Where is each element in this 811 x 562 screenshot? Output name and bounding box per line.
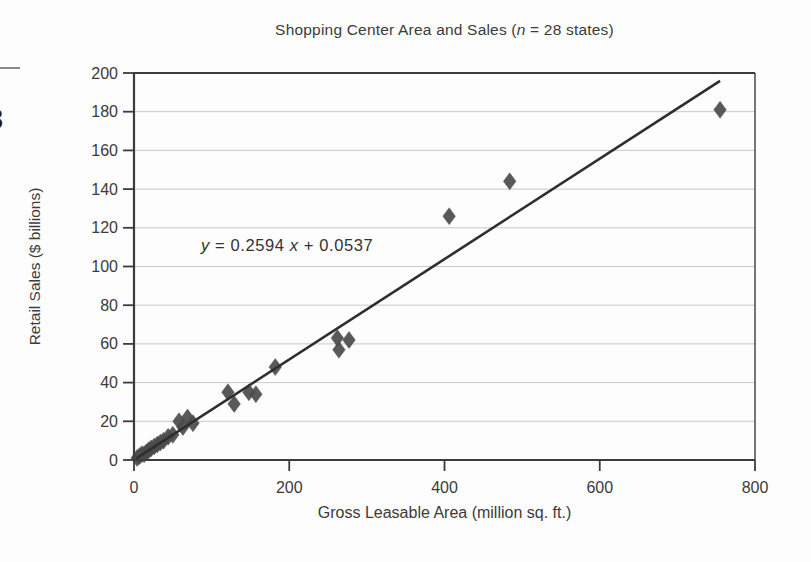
y-tick-label: 60 [100,335,118,352]
y-tick-label: 200 [91,65,118,82]
x-tick-label: 200 [276,479,303,496]
textbook-figure-page: 3 Shopping Center Area and Sales (n = 28… [0,0,811,562]
trend-line [136,81,720,458]
x-tick-label: 800 [742,479,769,496]
y-tick-label: 120 [91,219,118,236]
plot-area: 0200400600800020406080100120140160180200 [0,0,811,562]
y-tick-label: 40 [100,374,118,391]
data-point [714,101,727,118]
y-tick-label: 80 [100,297,118,314]
y-tick-label: 100 [91,258,118,275]
x-tick-label: 0 [130,479,139,496]
x-tick-label: 600 [586,479,613,496]
y-tick-label: 0 [109,452,118,469]
x-tick-label: 400 [431,479,458,496]
y-tick-label: 160 [91,142,118,159]
y-tick-label: 140 [91,181,118,198]
data-point [343,332,356,349]
data-point [503,173,516,190]
y-tick-label: 20 [100,413,118,430]
y-tick-label: 180 [91,103,118,120]
data-point [443,208,456,225]
